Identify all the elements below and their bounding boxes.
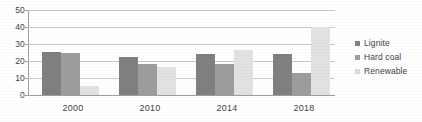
legend-swatch-icon-hardcoal <box>355 55 360 60</box>
x-tick-label-2000: 2000 <box>42 103 104 113</box>
x-tick-label-2014: 2014 <box>196 103 258 113</box>
legend-label-hardcoal: Hard coal <box>364 53 401 62</box>
bar-lignite-2018 <box>273 54 292 95</box>
bar-hardcoal-2018 <box>292 73 311 95</box>
y-tick-label-30: 30 <box>3 40 25 49</box>
bar-lignite-2010 <box>119 57 138 95</box>
bar-renewable-2018 <box>311 27 330 95</box>
bar-group-2010 <box>119 10 181 95</box>
legend-label-lignite: Lignite <box>364 39 390 48</box>
y-tick-label-10: 10 <box>3 74 25 83</box>
y-tick-label-50: 50 <box>3 6 25 15</box>
x-tick-label-2010: 2010 <box>119 103 181 113</box>
legend-swatch-icon-renewable <box>355 69 360 74</box>
legend-swatch-icon-lignite <box>355 41 360 46</box>
bar-lignite-2014 <box>196 54 215 95</box>
x-tick-label-2018: 2018 <box>273 103 335 113</box>
bar-hardcoal-2000 <box>61 53 80 95</box>
bar-group-2000 <box>42 10 104 95</box>
legend-item-renewable: Renewable <box>355 64 422 78</box>
legend-label-renewable: Renewable <box>364 67 407 76</box>
bar-group-2014 <box>196 10 258 95</box>
y-tick-label-20: 20 <box>3 57 25 66</box>
chart-legend: Lignite Hard coal Renewable <box>355 36 422 78</box>
bar-hardcoal-2014 <box>215 64 234 95</box>
legend-item-lignite: Lignite <box>355 36 422 50</box>
bar-chart: 50 40 30 20 10 0 <box>0 0 422 122</box>
bar-renewable-2000 <box>80 86 99 95</box>
axis-baseline <box>28 95 335 96</box>
bar-hardcoal-2010 <box>138 64 157 95</box>
legend-item-hardcoal: Hard coal <box>355 50 422 64</box>
bar-renewable-2010 <box>157 67 176 95</box>
bar-lignite-2000 <box>42 52 61 95</box>
y-tick-label-40: 40 <box>3 23 25 32</box>
bar-group-2018 <box>273 10 335 95</box>
plot-area <box>28 10 335 95</box>
y-axis: 50 40 30 20 10 0 <box>0 0 25 122</box>
y-tick-label-0: 0 <box>3 91 25 100</box>
bar-renewable-2014 <box>234 50 253 95</box>
